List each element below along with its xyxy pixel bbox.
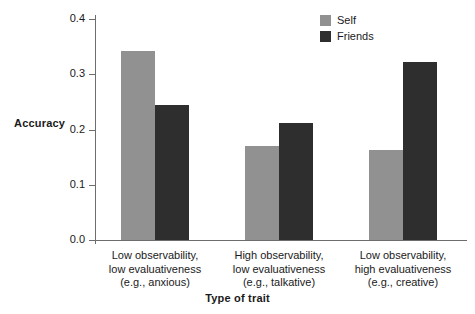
y-axis-tick-label: 0.3 [70,67,85,80]
bar-friends-group-1 [155,105,189,240]
x-axis-category-label: High observability,low evaluativeness(e.… [209,249,349,290]
y-axis-tick: 0.3 [89,74,95,75]
y-axis-tick-label: 0.2 [70,123,85,136]
y-axis-tick: 0.0 [89,240,95,241]
category-label-line: Low observability, [85,249,225,263]
y-axis-title: Accuracy [14,117,65,129]
x-axis-category-label: Low observability,low evaluativeness(e.g… [85,249,225,290]
x-axis-title: Type of trait [0,292,475,304]
bar-self-group-3 [369,150,403,240]
category-label-line: low evaluativeness [209,263,349,277]
y-axis-line [95,15,96,244]
y-axis-tick-label: 0.1 [70,178,85,191]
x-axis-category-label: Low observability,high evaluativeness(e.… [333,249,473,290]
category-label-line: (e.g., anxious) [85,276,225,290]
bar-self-group-1 [121,51,155,241]
category-label-line: high evaluativeness [333,263,473,277]
y-axis-tick: 0.2 [89,130,95,131]
y-axis-tick-label: 0.4 [70,12,85,25]
category-label-line: (e.g., creative) [333,276,473,290]
y-axis-tick: 0.4 [89,19,95,20]
bar-chart-figure: Self Friends Accuracy 0.00.10.20.30.4 Lo… [0,0,475,314]
category-label-line: (e.g., talkative) [209,276,349,290]
plot-area: 0.00.10.20.30.4 [95,19,467,240]
y-axis-tick: 0.1 [89,185,95,186]
x-axis-line [89,240,467,241]
bar-self-group-2 [245,146,279,240]
y-axis-tick-label: 0.0 [70,233,85,246]
bar-friends-group-2 [279,123,313,240]
category-label-line: low evaluativeness [85,263,225,277]
bar-friends-group-3 [403,62,437,240]
category-label-line: Low observability, [333,249,473,263]
category-label-line: High observability, [209,249,349,263]
